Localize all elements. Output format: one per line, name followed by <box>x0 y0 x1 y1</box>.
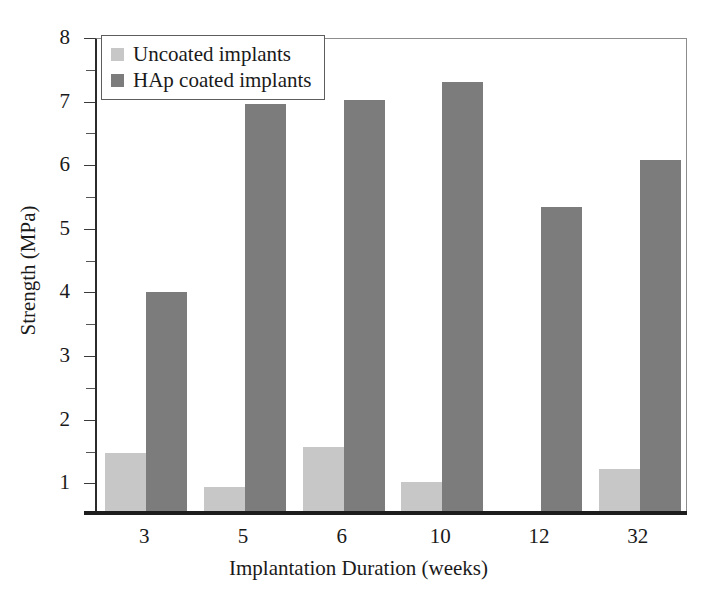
y-axis-minor-tick <box>86 324 95 325</box>
y-axis-tick-label: 3 <box>36 345 70 366</box>
y-axis-minor-tick <box>86 70 95 71</box>
legend-swatch-hap-coated-icon <box>111 74 124 87</box>
bar <box>640 160 681 512</box>
y-axis-tick-labels: 12345678 <box>26 0 70 594</box>
y-axis-tick-label: 7 <box>36 91 70 112</box>
x-axis-tick-label: 5 <box>198 524 288 548</box>
legend-swatch-uncoated-icon <box>111 48 124 61</box>
y-axis-tick-label: 8 <box>36 27 70 48</box>
y-axis-tick <box>84 292 95 293</box>
y-axis-tick <box>84 420 95 421</box>
y-axis-tick <box>84 483 95 484</box>
x-axis-tick-label: 12 <box>494 524 584 548</box>
x-axis-tick-label: 32 <box>593 524 683 548</box>
bar <box>599 469 640 512</box>
y-axis-tick <box>84 38 95 39</box>
legend-item-uncoated: Uncoated implants <box>111 41 311 67</box>
y-axis-tick-label: 5 <box>36 218 70 239</box>
legend-item-hap-coated: HAp coated implants <box>111 67 311 93</box>
chart-legend: Uncoated implants HAp coated implants <box>101 35 325 100</box>
y-axis-tick <box>84 356 95 357</box>
legend-label-hap-coated: HAp coated implants <box>133 69 311 91</box>
y-axis-tick-label: 1 <box>36 472 70 493</box>
plot-area <box>95 38 687 512</box>
y-axis-minor-tick <box>86 197 95 198</box>
bar <box>401 482 442 512</box>
x-axis-title: Implantation Duration (weeks) <box>0 556 717 581</box>
y-axis-minor-tick <box>86 388 95 389</box>
legend-label-uncoated: Uncoated implants <box>133 43 291 65</box>
bar <box>146 292 187 512</box>
bar <box>245 104 286 512</box>
x-axis-tick-label: 10 <box>395 524 485 548</box>
bar <box>541 207 582 512</box>
y-axis-tick-label: 4 <box>36 281 70 302</box>
y-axis-tick <box>84 229 95 230</box>
bar <box>442 82 483 512</box>
x-axis-baseline <box>84 511 687 515</box>
y-axis-tick <box>84 165 95 166</box>
bar <box>105 453 146 512</box>
bar <box>344 100 385 512</box>
bar <box>303 447 344 512</box>
y-axis-tick-label: 6 <box>36 154 70 175</box>
y-axis-minor-tick <box>86 261 95 262</box>
bar-chart-figure: Strength (MPa) 12345678 356101232 Implan… <box>0 0 717 594</box>
x-axis-tick-label: 6 <box>297 524 387 548</box>
y-axis-tick <box>84 102 95 103</box>
x-axis-tick-label: 3 <box>99 524 189 548</box>
y-axis-minor-tick <box>86 133 95 134</box>
y-axis-tick-label: 2 <box>36 409 70 430</box>
y-axis-minor-tick <box>86 452 95 453</box>
bar <box>204 487 245 512</box>
